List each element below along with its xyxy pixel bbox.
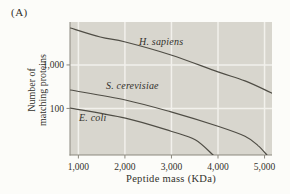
series-label-h-sapiens: H. sapiens [139,36,183,47]
svg-text:3,000: 3,000 [161,162,183,172]
series-label-s-cerevisiae: S. cerevisiae [106,80,159,91]
x-axis-title: Peptide mass (KDa) [126,173,216,184]
svg-text:4,000: 4,000 [207,162,229,172]
svg-text:2,000: 2,000 [114,162,136,172]
svg-text:1,000: 1,000 [43,60,65,70]
y-tick-labels: 1,000100 [43,60,65,114]
chart-plot-area: 1,0002,0003,0004,0005,0001,000100 [0,0,290,194]
svg-text:5,000: 5,000 [254,162,276,172]
svg-text:1,000: 1,000 [68,162,90,172]
figure-panel-a: (A) Number ofmatching proteins 1,0002,00… [0,0,290,194]
x-tick-labels: 1,0002,0003,0004,0005,000 [68,162,276,172]
svg-text:100: 100 [50,104,65,114]
series-label-e-coli: E. coli [79,112,107,123]
